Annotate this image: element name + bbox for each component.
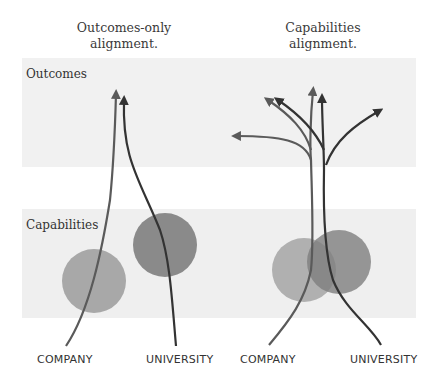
title-line-2: alignment. bbox=[243, 36, 403, 52]
panel-title-outcomes-only: Outcomes-only alignment. bbox=[44, 20, 204, 52]
university-label: UNIVERSITY bbox=[350, 353, 417, 366]
panel-title-capabilities: Capabilities alignment. bbox=[243, 20, 403, 52]
company-label: COMPANY bbox=[240, 353, 296, 366]
diagram-canvas bbox=[0, 0, 435, 386]
title-line-2: alignment. bbox=[44, 36, 204, 52]
alignment-diagram: Outcomes-only alignment. Capabilities al… bbox=[0, 0, 435, 386]
title-line-1: Outcomes-only bbox=[44, 20, 204, 36]
company-label: COMPANY bbox=[37, 353, 93, 366]
university-capability-circle bbox=[307, 230, 371, 294]
title-line-1: Capabilities bbox=[243, 20, 403, 36]
university-label: UNIVERSITY bbox=[146, 353, 213, 366]
band-label-outcomes: Outcomes bbox=[26, 67, 87, 81]
band-label-capabilities: Capabilities bbox=[26, 218, 98, 232]
